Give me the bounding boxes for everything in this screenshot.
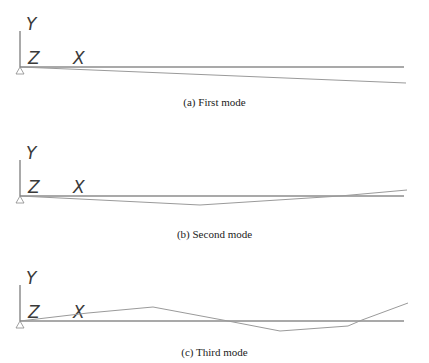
caption-first-mode: (a) First mode	[0, 96, 429, 108]
z-axis-label: Z	[27, 177, 40, 197]
x-axis-label: X	[72, 302, 85, 322]
caption-third-mode: (c) Third mode	[0, 346, 429, 358]
x-axis-label: X	[72, 177, 85, 197]
mode-shapes-diagram: Y Z X Y Z X Y Z X	[0, 0, 429, 363]
mode-shape-line	[20, 67, 406, 83]
panel-first-mode: Y Z X	[16, 14, 406, 83]
x-axis-label: X	[72, 48, 85, 68]
y-axis-label: Y	[26, 14, 38, 34]
y-axis-label: Y	[26, 143, 38, 163]
z-axis-label: Z	[27, 48, 40, 68]
panel-third-mode: Y Z X	[16, 268, 408, 331]
panel-second-mode: Y Z X	[16, 143, 407, 205]
y-axis-label: Y	[26, 268, 38, 288]
support-triangle-icon	[16, 196, 24, 203]
support-triangle-icon	[16, 67, 24, 74]
support-triangle-icon	[16, 321, 24, 328]
caption-second-mode: (b) Second mode	[0, 228, 429, 240]
